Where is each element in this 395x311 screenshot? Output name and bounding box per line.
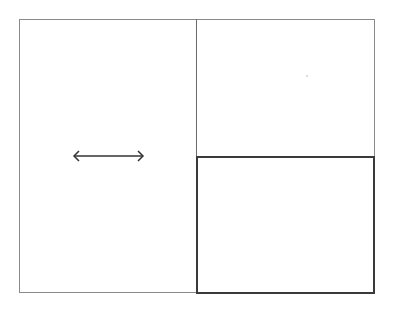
- top-right-pane[interactable]: [197, 20, 374, 156]
- bottom-right-pane-highlighted[interactable]: [196, 156, 375, 294]
- stray-mark: [306, 75, 308, 77]
- horizontal-resize-arrow-icon: [72, 149, 145, 163]
